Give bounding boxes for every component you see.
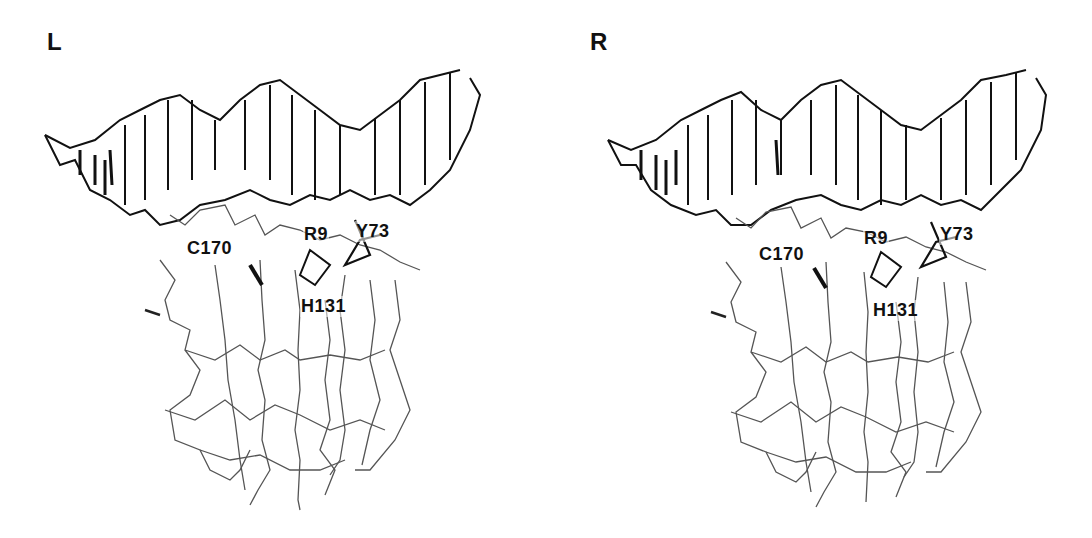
dna-duplex xyxy=(608,70,1046,225)
protein-trace xyxy=(711,207,986,507)
panel-letter-left: L xyxy=(47,28,62,56)
dna-duplex xyxy=(45,70,480,225)
residue-label-c170: C170 xyxy=(758,244,805,265)
stereo-panel-left: L C170 R9 Y73 H131 xyxy=(0,0,546,538)
residue-label-y73: Y73 xyxy=(355,221,391,242)
residue-label-h131: H131 xyxy=(872,300,919,321)
residue-label-y73: Y73 xyxy=(939,224,975,245)
left-molecular-model xyxy=(0,0,546,538)
panel-letter-right: R xyxy=(590,28,607,56)
right-molecular-model xyxy=(546,0,1092,538)
residue-label-h131: H131 xyxy=(300,296,347,317)
stereo-panel-right: R C170 R9 Y73 H131 xyxy=(546,0,1092,538)
residue-label-c170: C170 xyxy=(186,238,233,259)
residue-label-r9: R9 xyxy=(863,228,889,249)
residue-label-r9: R9 xyxy=(303,224,329,245)
